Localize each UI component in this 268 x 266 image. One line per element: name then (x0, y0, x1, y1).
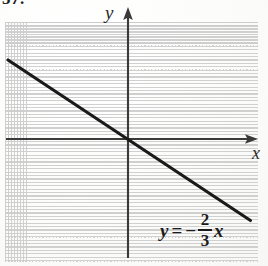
plotted-line (8, 60, 251, 221)
problem-number: 57. (2, 0, 25, 9)
equation-fraction: 2 3 (198, 211, 212, 249)
equation-label: y = − 2 3 x (159, 212, 224, 250)
equation-variable: x (214, 220, 224, 242)
x-axis-label: x (252, 144, 260, 162)
graph-figure: 57. y x y = − 2 3 x (0, 0, 268, 266)
equation-lhs: y (160, 220, 168, 242)
fraction-numerator: 2 (201, 211, 210, 229)
y-axis-label: y (105, 3, 113, 22)
coordinate-plane-drawing (0, 0, 268, 266)
fraction-denominator: 3 (201, 231, 210, 249)
equation-equals-sign: = (171, 220, 182, 242)
equation-minus-sign: − (185, 220, 196, 242)
